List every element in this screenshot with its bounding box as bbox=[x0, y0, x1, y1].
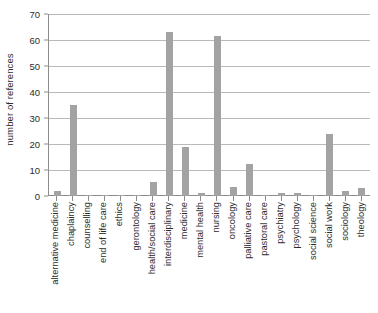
bar-slot bbox=[65, 14, 81, 196]
bar bbox=[326, 134, 333, 196]
x-axis-tick-mark bbox=[361, 196, 362, 201]
bar-chart: number of references 010203040506070 alt… bbox=[0, 0, 378, 313]
x-axis-tick-label: nursing bbox=[212, 202, 221, 233]
x-axis-tick-mark bbox=[88, 196, 89, 201]
bar-slot bbox=[97, 14, 113, 196]
y-axis-tick-label: 50 bbox=[29, 61, 40, 72]
x-axis-tick-labels: alternative medicinechaplaincycounsellin… bbox=[48, 202, 370, 313]
bar bbox=[246, 164, 253, 197]
x-tick-slot bbox=[225, 196, 241, 201]
bar-slot bbox=[209, 14, 225, 196]
x-tick-slot bbox=[354, 196, 370, 201]
x-axis-tick-mark bbox=[168, 196, 169, 201]
x-axis-tick-label: health/social care bbox=[148, 202, 157, 274]
x-axis-tick-marks bbox=[48, 196, 370, 201]
x-tick-slot bbox=[273, 196, 289, 201]
x-axis-tick-label: end of life care bbox=[100, 202, 109, 263]
x-axis-tick-label: oncology bbox=[228, 202, 237, 239]
x-label-slot: ethics bbox=[112, 202, 128, 313]
x-label-slot: psychiatry bbox=[273, 202, 289, 313]
x-axis-tick-mark bbox=[56, 196, 57, 201]
bar-slot bbox=[177, 14, 193, 196]
x-axis-tick-mark bbox=[249, 196, 250, 201]
bar-slot bbox=[129, 14, 145, 196]
y-axis-tick-label: 60 bbox=[29, 35, 40, 46]
x-tick-slot bbox=[306, 196, 322, 201]
x-axis-tick-mark bbox=[104, 196, 105, 201]
y-axis-tick-mark bbox=[44, 40, 48, 41]
bar bbox=[214, 36, 221, 196]
x-tick-slot bbox=[257, 196, 273, 201]
bar-slot bbox=[242, 14, 258, 196]
bar-slot bbox=[322, 14, 338, 196]
y-axis-title-text: number of references bbox=[4, 53, 15, 145]
x-axis-tick-label: chaplaincy bbox=[67, 202, 76, 246]
x-axis-tick-mark bbox=[297, 196, 298, 201]
x-axis-tick-mark bbox=[184, 196, 185, 201]
y-axis-tick-mark bbox=[44, 92, 48, 93]
bar bbox=[70, 105, 77, 196]
x-tick-slot bbox=[193, 196, 209, 201]
x-label-slot: alternative medicine bbox=[48, 202, 64, 313]
x-axis-tick-label: gerontology bbox=[132, 202, 141, 251]
x-label-slot: oncology bbox=[225, 202, 241, 313]
x-tick-slot bbox=[289, 196, 305, 201]
x-tick-slot bbox=[177, 196, 193, 201]
x-axis-tick-label: alternative medicine bbox=[51, 202, 60, 285]
x-axis-tick-label: social science bbox=[309, 202, 318, 260]
x-label-slot: pastoral care bbox=[257, 202, 273, 313]
bar-slot bbox=[290, 14, 306, 196]
x-tick-slot bbox=[322, 196, 338, 201]
plot-area-wrapper: 010203040506070 bbox=[18, 14, 370, 200]
x-tick-slot bbox=[80, 196, 96, 201]
x-axis-tick-mark bbox=[216, 196, 217, 201]
bar bbox=[230, 187, 237, 196]
x-tick-slot bbox=[64, 196, 80, 201]
x-tick-slot bbox=[145, 196, 161, 201]
bar bbox=[150, 182, 157, 196]
y-axis-tick-mark bbox=[44, 144, 48, 145]
y-axis-tick-labels: 010203040506070 bbox=[18, 14, 44, 200]
y-axis-tick-label: 0 bbox=[35, 191, 40, 202]
bar-slot bbox=[354, 14, 370, 196]
y-axis-tick-label: 10 bbox=[29, 165, 40, 176]
x-tick-slot bbox=[128, 196, 144, 201]
bar-slot bbox=[226, 14, 242, 196]
y-axis-tick-mark bbox=[44, 14, 48, 15]
x-axis-tick-label: medicine bbox=[180, 202, 189, 239]
x-tick-slot bbox=[161, 196, 177, 201]
x-axis-tick-label: social work bbox=[325, 202, 334, 248]
x-label-slot: gerontology bbox=[128, 202, 144, 313]
x-axis-tick-mark bbox=[313, 196, 314, 201]
x-axis-tick-label: psychiatry bbox=[277, 202, 286, 244]
plot-area bbox=[48, 14, 370, 196]
x-axis-tick-mark bbox=[281, 196, 282, 201]
x-axis-tick-label: ethics bbox=[116, 202, 125, 226]
y-axis-tick-mark bbox=[44, 118, 48, 119]
x-label-slot: nursing bbox=[209, 202, 225, 313]
x-label-slot: psychology bbox=[289, 202, 305, 313]
x-label-slot: end of life care bbox=[96, 202, 112, 313]
x-label-slot: chaplaincy bbox=[64, 202, 80, 313]
y-axis-tick-label: 70 bbox=[29, 9, 40, 20]
x-axis-tick-mark bbox=[72, 196, 73, 201]
x-label-slot: social work bbox=[322, 202, 338, 313]
x-tick-slot bbox=[241, 196, 257, 201]
y-axis-tick-label: 30 bbox=[29, 113, 40, 124]
x-axis-tick-label: pastoral care bbox=[261, 202, 270, 256]
x-axis-tick-mark bbox=[233, 196, 234, 201]
bar-slot bbox=[338, 14, 354, 196]
bar-series bbox=[49, 14, 370, 196]
y-axis-tick-mark bbox=[44, 66, 48, 67]
x-axis-tick-mark bbox=[200, 196, 201, 201]
y-axis-tick-label: 40 bbox=[29, 87, 40, 98]
bar-slot bbox=[193, 14, 209, 196]
bar-slot bbox=[81, 14, 97, 196]
x-label-slot: mental health bbox=[193, 202, 209, 313]
bar bbox=[182, 147, 189, 196]
x-axis-tick-label: mental health bbox=[196, 202, 205, 258]
x-label-slot: medicine bbox=[177, 202, 193, 313]
x-tick-slot bbox=[338, 196, 354, 201]
x-axis-tick-mark bbox=[265, 196, 266, 201]
bar-slot bbox=[258, 14, 274, 196]
